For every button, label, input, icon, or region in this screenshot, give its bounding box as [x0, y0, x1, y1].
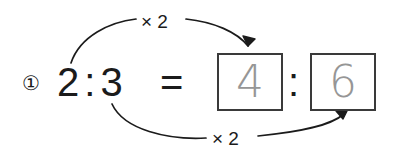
top-multiply-label: × 2 [138, 12, 171, 31]
answer-box-consequent[interactable]: 6 [310, 53, 376, 111]
top-arrow-right-segment [186, 19, 248, 46]
answer-digit-antecedent: 4 [236, 60, 264, 104]
ratio-worksheet-problem: ① 2:3 = 4 : 6 × 2 × 2 [0, 0, 397, 161]
bottom-arrow-right-segment [258, 114, 344, 136]
equals-sign: = [160, 62, 183, 102]
right-ratio-separator: : [288, 62, 299, 102]
left-ratio-consequent: 3 [100, 60, 123, 104]
top-arrow-left-segment [71, 19, 136, 63]
top-arrowhead-icon [243, 36, 255, 46]
answer-box-antecedent[interactable]: 4 [217, 53, 283, 111]
item-number: ① [18, 70, 44, 96]
bottom-arrow-left-segment [112, 104, 206, 138]
left-ratio-antecedent: 2 [57, 60, 80, 104]
left-ratio: 2:3 [57, 62, 124, 102]
answer-digit-consequent: 6 [329, 60, 357, 104]
left-ratio-separator: : [80, 60, 100, 104]
bottom-multiply-label: × 2 [209, 129, 242, 148]
